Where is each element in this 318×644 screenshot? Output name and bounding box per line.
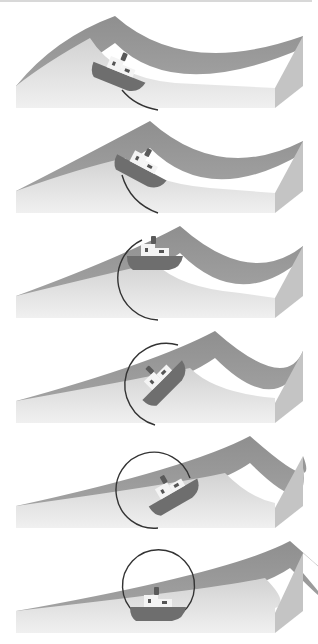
top-rule	[0, 0, 312, 2]
wave-panel-step-1	[0, 8, 318, 113]
boat-hull	[130, 607, 186, 621]
boat-window	[159, 250, 164, 253]
boat-funnel	[151, 236, 156, 244]
wave-block	[16, 16, 303, 108]
boat-funnel	[154, 587, 159, 595]
boat-window	[162, 601, 167, 604]
wave-panel-step-2	[0, 113, 318, 218]
boat-window	[148, 599, 151, 603]
boat-window	[145, 248, 148, 252]
wave-panel-step-6	[0, 533, 318, 638]
boat-hull	[127, 256, 183, 270]
wave-block	[16, 121, 303, 213]
wave-block	[16, 226, 303, 318]
wave-panel-step-5	[0, 428, 318, 533]
wave-panel-step-4	[0, 323, 318, 428]
wave-panel-step-3	[0, 218, 318, 323]
